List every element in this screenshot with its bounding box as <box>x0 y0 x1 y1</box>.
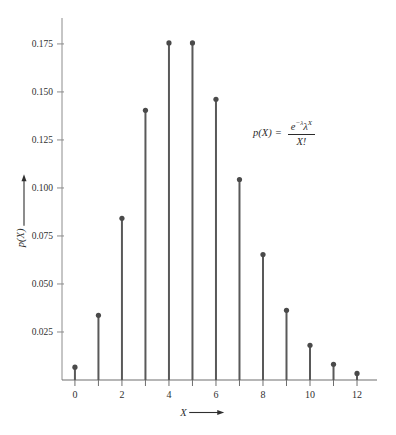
poisson-distribution-figure: 0.0250.0500.0750.1000.1250.1500.175 0246… <box>0 0 396 435</box>
formula-fraction: e−λλX X! <box>288 119 315 148</box>
y-axis-title: p(X) <box>15 228 27 248</box>
x-tick-label: 12 <box>352 389 362 400</box>
stem-marker <box>166 40 171 45</box>
chart-canvas: 0.0250.0500.0750.1000.1250.1500.175 0246… <box>0 0 396 435</box>
stem-marker <box>213 97 218 102</box>
poisson-formula-annotation: p(X) = e−λλX X! <box>253 119 315 148</box>
stem-series <box>72 40 359 380</box>
stem-marker <box>96 313 101 318</box>
y-tick-label: 0.100 <box>32 183 54 193</box>
x-tick-label: 4 <box>166 389 171 400</box>
x-tick-label: 2 <box>119 389 124 400</box>
y-tick-label: 0.175 <box>32 39 54 49</box>
y-tick-label: 0.025 <box>32 327 54 337</box>
y-tick-label: 0.050 <box>32 279 54 289</box>
stem-marker <box>119 216 124 221</box>
formula-equals: = <box>272 127 285 139</box>
x-axis-title: X <box>179 407 187 418</box>
x-axis-ticks <box>75 380 357 386</box>
stem-marker <box>284 308 289 313</box>
y-axis-arrow-head <box>22 174 27 181</box>
axes-group <box>62 18 377 380</box>
stem-marker <box>190 40 195 45</box>
stem-marker <box>72 365 77 370</box>
stem-marker <box>354 371 359 376</box>
formula-lhs: p(X) <box>253 127 272 139</box>
x-axis-arrow-head <box>217 410 224 415</box>
x-tick-label: 6 <box>213 389 218 400</box>
x-axis-tick-labels: 024681012 <box>72 389 362 400</box>
formula-numerator: e−λλX <box>288 119 315 135</box>
y-axis-tick-labels: 0.0250.0500.0750.1000.1250.1500.175 <box>32 39 54 337</box>
formula-lambda-exp: X <box>308 119 312 127</box>
y-tick-label: 0.125 <box>32 135 54 145</box>
stem-marker <box>331 362 336 367</box>
formula-denominator: X! <box>293 135 309 148</box>
x-tick-label: 10 <box>305 389 315 400</box>
stem-marker <box>237 177 242 182</box>
x-tick-label: 8 <box>260 389 265 400</box>
stem-marker <box>260 252 265 257</box>
y-axis-ticks <box>57 44 64 332</box>
y-tick-label: 0.075 <box>32 231 54 241</box>
x-tick-label: 0 <box>72 389 77 400</box>
stem-marker <box>143 108 148 113</box>
y-tick-label: 0.150 <box>32 87 54 97</box>
stem-marker <box>307 343 312 348</box>
